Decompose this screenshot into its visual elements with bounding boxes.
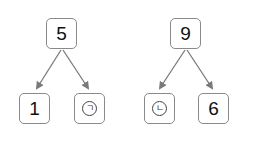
tree2-right-child-box: 6 xyxy=(198,93,229,124)
tree2-right-child-value: 6 xyxy=(208,99,219,118)
tree2-root-value: 9 xyxy=(180,24,191,43)
tree2-root-box: 9 xyxy=(170,18,201,49)
circled-giyeok-icon: ㄱ xyxy=(82,101,97,116)
arrow-9-to-nieun xyxy=(160,50,185,88)
number-bond-diagram: 5 1 ㄱ 9 ㄴ 6 xyxy=(0,0,262,145)
tree2-left-child-box: ㄴ xyxy=(144,93,175,124)
tree1-root-box: 5 xyxy=(46,18,77,49)
tree1-left-child-value: 1 xyxy=(29,99,40,118)
arrow-5-to-giyeok xyxy=(63,50,88,88)
tree1-right-child-box: ㄱ xyxy=(74,93,105,124)
tree1-left-child-box: 1 xyxy=(19,93,50,124)
arrow-9-to-6 xyxy=(187,50,212,88)
arrow-5-to-1 xyxy=(37,50,61,88)
tree1-root-value: 5 xyxy=(56,24,67,43)
circled-nieun-icon: ㄴ xyxy=(152,101,167,116)
